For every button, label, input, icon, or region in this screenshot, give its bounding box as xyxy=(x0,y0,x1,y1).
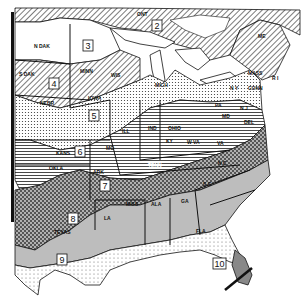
label-mass: MASS xyxy=(248,70,263,76)
label-nj: N J xyxy=(240,105,248,111)
label-pa: PA xyxy=(215,102,222,108)
label-tenn: TENN xyxy=(148,162,162,168)
label-md: MD xyxy=(222,113,230,119)
label-la: LA xyxy=(104,215,111,221)
label-ala: ALA xyxy=(151,201,162,207)
label-ga: GA xyxy=(181,198,189,204)
label-kans: KANS xyxy=(56,150,71,156)
label-me: ME xyxy=(258,33,266,39)
label-iowa: IOWA xyxy=(88,95,102,101)
zone-label-8: 8 xyxy=(68,213,78,224)
label-wis: WIS xyxy=(111,72,121,78)
label-va: VA xyxy=(217,140,224,146)
label-mich: MICH xyxy=(155,82,168,88)
zone-label-2: 2 xyxy=(152,20,162,31)
label-sdak: S DAK xyxy=(19,71,35,77)
label-okla: OKLA xyxy=(49,165,64,171)
svg-text:7: 7 xyxy=(102,181,107,191)
label-nc: N C xyxy=(218,160,227,166)
svg-text:6: 6 xyxy=(77,147,82,157)
svg-text:8: 8 xyxy=(70,214,75,224)
left-border-lower xyxy=(11,112,14,222)
label-ill: ILL xyxy=(122,128,130,134)
zone-label-4: 4 xyxy=(49,78,59,89)
zone-10-region xyxy=(232,250,252,285)
label-ind: IND xyxy=(148,125,157,131)
zone-label-3: 3 xyxy=(83,40,93,51)
label-sc: S C xyxy=(203,181,212,187)
zone-3-region xyxy=(15,18,120,64)
zone-label-7: 7 xyxy=(100,180,110,191)
label-del: DEL xyxy=(244,119,254,125)
label-mo: MO xyxy=(106,145,114,151)
svg-text:9: 9 xyxy=(59,255,64,265)
label-texas: TEXAS xyxy=(54,229,71,235)
label-minn: MINN xyxy=(80,68,93,74)
label-ky: KY xyxy=(166,138,174,144)
zone-label-10: 10 xyxy=(213,258,226,269)
label-ndak: N DAK xyxy=(34,43,50,49)
zone-label-5: 5 xyxy=(89,110,99,121)
svg-text:3: 3 xyxy=(85,41,90,51)
label-ny: N Y xyxy=(230,85,239,91)
label-nebr: NEBR xyxy=(40,100,55,106)
zone-map: 2 3 4 5 6 7 8 9 10 ONT N DAK S DAK MINN … xyxy=(0,0,301,299)
zone-label-6: 6 xyxy=(75,146,85,157)
label-ohio: OHIO xyxy=(168,125,181,131)
label-conn: CONN xyxy=(248,85,263,91)
svg-text:4: 4 xyxy=(51,79,56,89)
label-ont: ONT xyxy=(137,11,148,17)
label-ark: ARK xyxy=(93,169,104,175)
label-fla: FLA xyxy=(196,228,206,234)
zone-label-9: 9 xyxy=(57,254,67,265)
label-ri: R I xyxy=(272,75,279,81)
svg-text:5: 5 xyxy=(91,111,96,121)
left-border xyxy=(11,12,14,112)
svg-text:10: 10 xyxy=(214,259,224,269)
label-wva: W VA xyxy=(187,139,200,145)
label-miss: MISS xyxy=(126,201,139,207)
svg-text:2: 2 xyxy=(154,21,159,31)
